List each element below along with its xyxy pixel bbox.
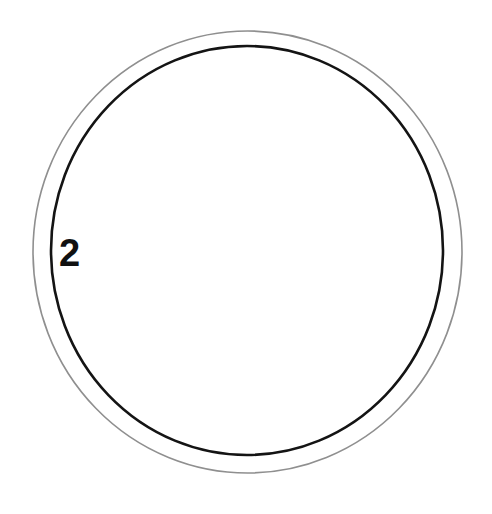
circle-number-label: 2: [59, 234, 80, 272]
diagram-canvas: 2: [0, 0, 492, 514]
